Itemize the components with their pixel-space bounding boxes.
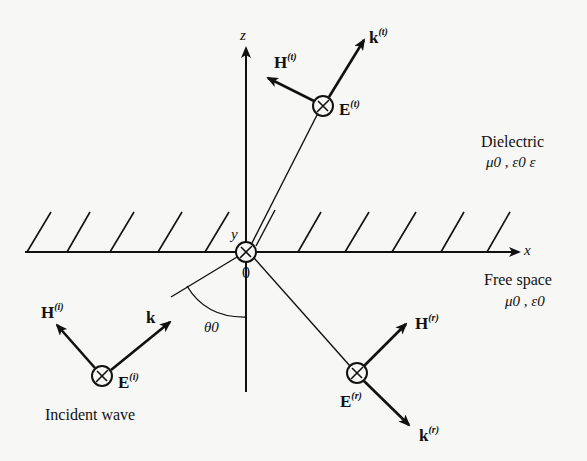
transmitted-k-label: k(t): [369, 28, 388, 46]
dielectric-params: μ0 , ε0 ε: [486, 155, 535, 170]
reflected-H-label: H(r): [415, 314, 439, 332]
transmitted-E-label: E(t): [339, 100, 360, 118]
z-axis-label: z: [240, 28, 246, 43]
diagram-canvas: z x y 0 Dielectric μ0 , ε0 ε Free space …: [0, 0, 587, 461]
incident-E-label: E(i): [118, 373, 139, 391]
reflected-E-label: E(r): [340, 392, 362, 410]
dielectric-label: Dielectric: [481, 134, 544, 150]
incident-k-label: k: [146, 308, 155, 326]
reflected-k-label: k(r): [419, 426, 439, 444]
origin-cross-circle: [236, 242, 256, 262]
incident-wave-caption: Incident wave: [45, 407, 135, 423]
y-axis-label: y: [231, 227, 238, 242]
transmitted-ray: [252, 40, 364, 246]
x-axis-label: x: [524, 243, 531, 258]
free-space-label: Free space: [484, 272, 552, 288]
free-space-params: μ0 , ε0: [505, 294, 545, 309]
incident-H-label: H(i): [41, 303, 64, 321]
origin-label: 0: [242, 265, 250, 281]
angle-theta0-label: θ0: [204, 320, 219, 335]
reflected-ray: [254, 258, 409, 425]
transmitted-H-label: H(t): [274, 53, 297, 71]
interface-surface: [25, 212, 519, 252]
